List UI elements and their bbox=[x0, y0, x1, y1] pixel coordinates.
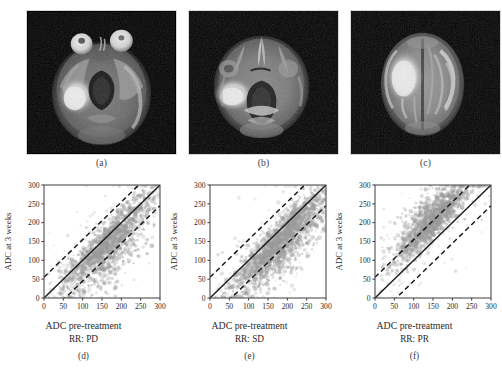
ytick-label: 250 bbox=[194, 200, 206, 209]
mri-panel-c bbox=[350, 10, 501, 155]
adc-map-baseline bbox=[26, 10, 177, 155]
panel-letter-e: (e) bbox=[166, 351, 333, 361]
panel-letter-a: (a) bbox=[26, 158, 177, 168]
panel-letter-f: (f) bbox=[331, 351, 498, 361]
xtick-label: 250 bbox=[466, 302, 478, 311]
ytick-label: 300 bbox=[28, 181, 40, 190]
panel-letter-d: (d) bbox=[0, 351, 167, 361]
xtick-label: 100 bbox=[243, 302, 255, 311]
xtick-label: 200 bbox=[447, 302, 459, 311]
xtick-label: 50 bbox=[391, 302, 399, 311]
ytick-label: 0 bbox=[202, 294, 206, 303]
ytick-label: 50 bbox=[363, 275, 371, 284]
adc-map-followup bbox=[188, 10, 339, 155]
xtick-label: 300 bbox=[485, 302, 497, 311]
scatter-plot-d: 050100150200250300050100150200250300ADC … bbox=[0, 178, 167, 318]
ytick-label: 0 bbox=[36, 294, 40, 303]
yaxis-label: ADC at 3 weeks bbox=[334, 212, 344, 270]
xtick-label: 0 bbox=[373, 302, 377, 311]
xtick-label: 200 bbox=[282, 302, 294, 311]
scatter-panel-d: 050100150200250300050100150200250300ADC … bbox=[0, 178, 167, 378]
brain-mri-axial-skullbase-icon bbox=[189, 11, 338, 154]
ytick-label: 100 bbox=[194, 256, 206, 265]
ytick-label: 150 bbox=[359, 237, 371, 246]
yaxis-label: ADC at 3 weeks bbox=[3, 212, 13, 270]
xtick-label: 200 bbox=[116, 302, 128, 311]
xtick-label: 250 bbox=[135, 302, 147, 311]
xtick-label: 250 bbox=[301, 302, 313, 311]
panel-letter-b: (b) bbox=[188, 158, 339, 168]
xtick-label: 150 bbox=[427, 302, 439, 311]
xtick-label: 100 bbox=[408, 302, 420, 311]
xtick-label: 150 bbox=[96, 302, 108, 311]
response-rate-label-f: RR: PR bbox=[331, 334, 498, 344]
panel-letter-c: (c) bbox=[350, 158, 501, 168]
adc-map-superior bbox=[350, 10, 501, 155]
yaxis-label: ADC at 3 weeks bbox=[169, 212, 179, 270]
xtick-label: 0 bbox=[42, 302, 46, 311]
xtick-label: 300 bbox=[154, 302, 166, 311]
scatter-panel-row: 050100150200250300050100150200250300ADC … bbox=[0, 178, 502, 378]
xtick-label: 100 bbox=[77, 302, 89, 311]
ytick-label: 150 bbox=[194, 237, 206, 246]
xaxis-label-f: ADC pre-treatment bbox=[331, 320, 498, 331]
xaxis-label-d: ADC pre-treatment bbox=[0, 320, 167, 331]
ytick-label: 150 bbox=[28, 237, 40, 246]
figure-container: (a) (b) (c) 0501001502002503000501001502… bbox=[0, 0, 502, 378]
ytick-label: 300 bbox=[359, 181, 371, 190]
ytick-label: 200 bbox=[28, 218, 40, 227]
scatter-plot-e: 050100150200250300050100150200250300ADC … bbox=[166, 178, 333, 318]
ytick-label: 50 bbox=[32, 275, 40, 284]
mri-panel-row: (a) (b) (c) bbox=[0, 0, 502, 178]
response-rate-label-d: RR: PD bbox=[0, 334, 167, 344]
xtick-label: 0 bbox=[208, 302, 212, 311]
brain-mri-axial-superior-icon bbox=[351, 11, 500, 154]
ytick-label: 300 bbox=[194, 181, 206, 190]
scatter-panel-f: 050100150200250300050100150200250300ADC … bbox=[331, 178, 498, 378]
ytick-label: 0 bbox=[367, 294, 371, 303]
xtick-label: 50 bbox=[60, 302, 68, 311]
response-rate-label-e: RR: SD bbox=[166, 334, 333, 344]
xtick-label: 150 bbox=[262, 302, 274, 311]
scatter-plot-f: 050100150200250300050100150200250300ADC … bbox=[331, 178, 498, 318]
ytick-label: 200 bbox=[359, 218, 371, 227]
xtick-label: 50 bbox=[226, 302, 234, 311]
ytick-label: 250 bbox=[28, 200, 40, 209]
ytick-label: 250 bbox=[359, 200, 371, 209]
ytick-label: 100 bbox=[28, 256, 40, 265]
xaxis-label-e: ADC pre-treatment bbox=[166, 320, 333, 331]
mri-panel-a bbox=[26, 10, 177, 155]
ytick-label: 100 bbox=[359, 256, 371, 265]
ytick-label: 200 bbox=[194, 218, 206, 227]
brain-mri-axial-orbit-level-icon bbox=[27, 11, 176, 154]
scatter-panel-e: 050100150200250300050100150200250300ADC … bbox=[166, 178, 333, 378]
mri-panel-b bbox=[188, 10, 339, 155]
ytick-label: 50 bbox=[198, 275, 206, 284]
